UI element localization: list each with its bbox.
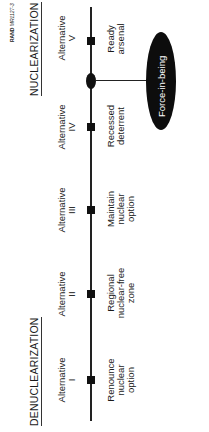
alt-label-5: Alternative V: [57, 13, 77, 63]
marker-alternative-5: [87, 37, 95, 45]
alt-label-4: Alternative IV: [57, 102, 77, 152]
marker-alternative-4: [87, 123, 95, 131]
force-in-being-node: [86, 73, 96, 89]
spectrum-axis: [90, 7, 92, 421]
alt-label-2: Alternative II: [57, 269, 77, 319]
marker-alternative-3: [87, 206, 95, 214]
alt-desc-4: Recessed deterrent: [106, 97, 126, 155]
alt-desc-3: Maintain nuclear option: [106, 181, 136, 237]
force-in-being-label: Force-in-being: [156, 56, 167, 117]
figure-id: RAND MR1127-3: [9, 3, 15, 42]
alt-desc-5: Ready arsenal: [106, 12, 126, 66]
alt-label-1: Alternative I: [57, 355, 77, 405]
marker-alternative-1: [87, 376, 95, 384]
alt-desc-1: Renounce nuclear option: [106, 352, 136, 408]
marker-alternative-2: [87, 290, 95, 298]
alt-desc-2: Regional nuclear-free zone: [106, 260, 136, 326]
figure-id-code: MR1127-3: [9, 3, 15, 26]
alt-label-3: Alternative III: [57, 185, 77, 235]
section-nuclearization: NUCLEARIZATION: [28, 2, 42, 96]
figure-id-prefix: RAND: [9, 28, 15, 42]
section-denuclearization: DENUCLEARIZATION: [28, 317, 42, 426]
force-in-being-connector: [96, 80, 146, 81]
